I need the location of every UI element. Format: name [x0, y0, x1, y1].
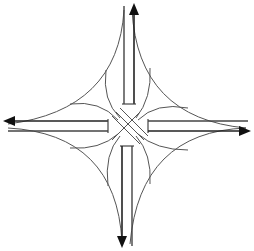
- interchange-diagram: [0, 0, 254, 251]
- inner-curve-ne-b: [138, 107, 188, 121]
- outer-ramp-curves: [8, 10, 246, 244]
- north-arrowhead-icon: [129, 3, 139, 15]
- outer-curve-nw: [8, 10, 124, 124]
- inner-curve-ne-a: [136, 68, 150, 118]
- north-arm: [122, 3, 139, 104]
- inner-ramp-curves: [70, 68, 188, 186]
- inner-curve-sw-a: [70, 134, 118, 148]
- center-diagonal-2: [112, 116, 140, 144]
- outer-curve-se: [130, 128, 246, 244]
- inner-curve-se-b: [136, 136, 150, 184]
- east-arm: [148, 119, 251, 136]
- inner-curve-sw-b: [107, 136, 120, 186]
- center-diagonal-3: [120, 108, 148, 136]
- west-arrowhead-icon: [3, 116, 15, 126]
- outer-curve-ne: [132, 10, 246, 128]
- inner-curve-se-a: [138, 134, 188, 150]
- center-diagonal-1: [116, 112, 144, 140]
- outer-curve-sw: [8, 128, 122, 242]
- south-arrowhead-icon: [117, 236, 127, 248]
- center-diagonal-4: [112, 112, 140, 140]
- south-arm: [117, 146, 134, 248]
- west-arm: [3, 116, 108, 133]
